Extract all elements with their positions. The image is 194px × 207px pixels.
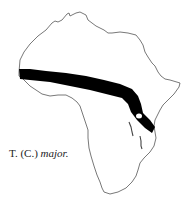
- lake-victoria: [136, 114, 142, 119]
- africa-outline-svg: [0, 0, 194, 207]
- caption-species: major.: [41, 147, 69, 159]
- africa-distribution-map: [0, 0, 194, 207]
- africa-coastline: [19, 12, 180, 194]
- lake-tanganyika: [129, 122, 133, 136]
- lake-malawi: [140, 136, 142, 149]
- map-caption: T. (C.) major.: [9, 147, 68, 159]
- caption-genus: T. (C.): [9, 147, 41, 159]
- species-range-band: [19, 69, 155, 133]
